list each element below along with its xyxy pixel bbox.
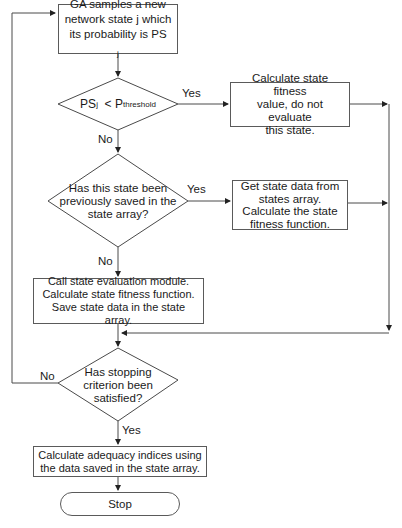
adequacy-text: Calculate adequacy indices using the dat… <box>38 449 201 475</box>
evaluate-state-box: Call state evaluation module. Calculate … <box>33 278 204 324</box>
stop-criterion-text: Has stopping criterion been satisfied? <box>83 366 153 405</box>
threshold-subscript: threshold <box>123 98 156 111</box>
stop-no-label: No <box>40 370 55 382</box>
p-label: P <box>115 98 123 111</box>
ps-label: PS <box>80 98 96 111</box>
ps-subscript: j <box>96 98 98 111</box>
less-than-operator: < <box>105 98 112 111</box>
threshold-decision: PSj < Pthreshold <box>62 96 174 112</box>
sample-subscript: j <box>117 49 119 58</box>
skip-evaluation-box: Calculate state fitness value, do not ev… <box>230 82 350 127</box>
threshold-no-label: No <box>98 133 113 145</box>
stop-criterion-decision: Has stopping criterion been satisfied? <box>76 364 160 406</box>
stop-text: Stop <box>108 498 132 511</box>
sample-state-box: GA samples a new network state j which i… <box>58 4 178 54</box>
skip-evaluation-text: Calculate state fitness value, do not ev… <box>234 72 346 137</box>
saved-no-label: No <box>98 255 113 267</box>
threshold-yes-label: Yes <box>182 87 201 99</box>
stop-yes-label: Yes <box>122 424 141 436</box>
sample-state-text: GA samples a new network state j which i… <box>62 0 174 42</box>
saved-decision: Has this state been previously saved in … <box>50 180 186 222</box>
saved-decision-text: Has this state been previously saved in … <box>60 182 177 221</box>
get-saved-state-box: Get state data from states array. Calcul… <box>232 180 348 230</box>
stop-terminal: Stop <box>60 492 180 516</box>
adequacy-box: Calculate adequacy indices using the dat… <box>33 446 207 477</box>
get-saved-state-text: Get state data from states array. Calcul… <box>241 180 339 230</box>
evaluate-state-text: Call state evaluation module. Calculate … <box>37 275 200 327</box>
saved-yes-label: Yes <box>187 183 206 195</box>
